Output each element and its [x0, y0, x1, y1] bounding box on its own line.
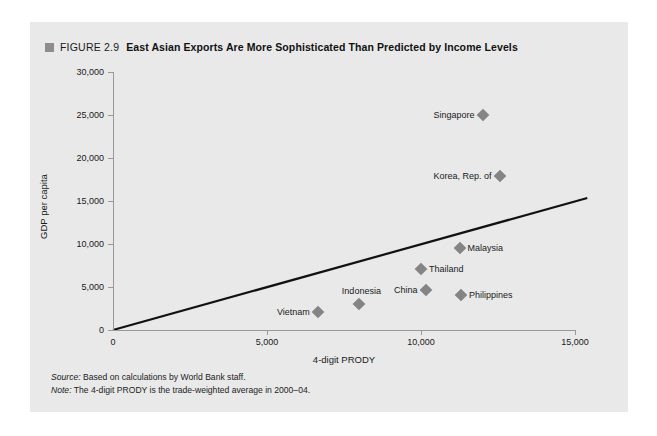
y-tick — [108, 244, 113, 245]
note-line: Note: The 4-digit PRODY is the trade-wei… — [51, 384, 310, 397]
source-line: Source: Based on calculations by World B… — [51, 371, 310, 384]
figure-panel: FIGURE 2.9 East Asian Exports Are More S… — [30, 22, 628, 412]
x-tick-label: 10,000 — [407, 337, 435, 347]
data-point-label: Singapore — [434, 110, 475, 120]
y-tick-label: 25,000 — [76, 110, 104, 120]
y-tick-label: 15,000 — [76, 196, 104, 206]
y-tick-label: 5,000 — [81, 282, 104, 292]
note-text: The 4-digit PRODY is the trade-weighted … — [72, 385, 311, 395]
source-label: Source: — [51, 372, 81, 382]
x-tick — [421, 330, 422, 335]
data-point-label: Indonesia — [342, 286, 381, 296]
scatter-plot: GDP per capita 4-digit PRODY 05,00010,00… — [30, 22, 628, 412]
x-tick — [267, 330, 268, 335]
y-tick-label: 30,000 — [76, 67, 104, 77]
x-axis-line — [113, 330, 575, 331]
y-axis-title: GDP per capita — [38, 174, 49, 239]
source-text: Based on calculations by World Bank staf… — [81, 372, 246, 382]
x-tick-label: 5,000 — [256, 337, 279, 347]
x-axis-title: 4-digit PRODY — [313, 354, 375, 365]
note-label: Note: — [51, 385, 72, 395]
y-tick — [108, 72, 113, 73]
y-tick — [108, 287, 113, 288]
y-tick — [108, 115, 113, 116]
y-tick-label: 20,000 — [76, 153, 104, 163]
y-axis-line — [113, 72, 114, 331]
y-tick-label: 10,000 — [76, 239, 104, 249]
data-point-label: Malaysia — [468, 243, 504, 253]
data-point-label: Philippines — [469, 290, 513, 300]
data-point-label: Vietnam — [277, 307, 310, 317]
data-point-label: Korea, Rep. of — [434, 171, 492, 181]
data-point-label: Thailand — [429, 264, 464, 274]
y-tick — [108, 201, 113, 202]
y-tick — [108, 330, 113, 331]
data-point-label: China — [394, 285, 418, 295]
y-tick-label: 0 — [99, 325, 104, 335]
figure-notes: Source: Based on calculations by World B… — [51, 371, 310, 396]
x-tick-label: 15,000 — [561, 337, 589, 347]
x-tick — [575, 330, 576, 335]
y-tick — [108, 158, 113, 159]
x-tick-label: 0 — [110, 337, 115, 347]
